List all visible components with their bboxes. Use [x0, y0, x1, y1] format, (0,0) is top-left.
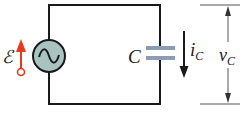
current-label: iC	[190, 39, 204, 63]
voltage-subscript: C	[227, 54, 236, 68]
emf-arrow-icon	[16, 39, 26, 76]
voltage-label: vC	[219, 45, 236, 68]
capacitor-plate-top	[146, 46, 175, 50]
voltage-arrow-down-icon	[225, 93, 231, 103]
current-arrow-icon	[180, 31, 189, 78]
ac-source	[33, 40, 65, 72]
capacitor	[146, 46, 175, 60]
voltage-arrow-up-icon	[225, 6, 231, 16]
circuit-diagram: ℰ C iC vC	[0, 0, 248, 120]
emf-label: ℰ	[2, 47, 15, 67]
capacitor-plate-bottom	[146, 56, 175, 60]
current-subscript: C	[195, 49, 204, 63]
voltage-symbol: v	[219, 45, 227, 65]
capacitor-label: C	[128, 46, 141, 67]
